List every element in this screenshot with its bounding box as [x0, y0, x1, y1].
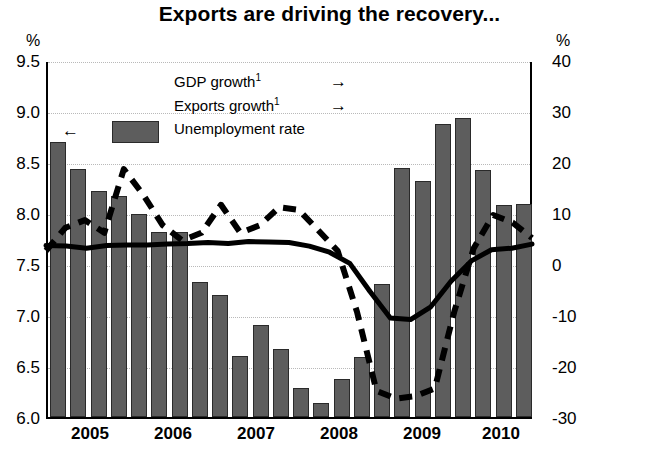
- legend-item-gdp-growth: GDP growth1 →: [62, 72, 362, 96]
- x-axis-tick: 2005: [50, 424, 130, 444]
- y-axis-tick-right: -30: [552, 409, 612, 429]
- bar: [354, 357, 370, 417]
- x-axis-tick: 2008: [299, 424, 379, 444]
- bar: [91, 191, 107, 417]
- arrow-right-icon: →: [330, 96, 347, 116]
- legend-label: GDP growth1: [174, 72, 261, 90]
- y-axis-tick-right: 0: [552, 256, 612, 276]
- bar-swatch-icon: [112, 121, 159, 143]
- x-axis-tick: 2010: [461, 424, 541, 444]
- right-axis-unit: %: [556, 32, 570, 50]
- bar: [313, 403, 329, 417]
- x-axis-tick: 2009: [382, 424, 462, 444]
- bar: [475, 170, 491, 417]
- y-axis-tick-left: 6.5: [0, 358, 40, 378]
- bar: [111, 196, 127, 417]
- y-axis-tick-left: 6.0: [0, 409, 40, 429]
- legend-item-unemployment-rate: ← Unemployment rate: [62, 120, 362, 144]
- y-axis-tick-left: 7.5: [0, 256, 40, 276]
- bar: [131, 214, 147, 417]
- y-axis-tick-left: 7.0: [0, 307, 40, 327]
- legend-label: Exports growth1: [174, 96, 280, 114]
- bar: [293, 388, 309, 417]
- bar: [415, 181, 431, 417]
- bar: [232, 356, 248, 417]
- y-axis-tick-right: 40: [552, 52, 612, 72]
- y-axis-tick-right: -10: [552, 307, 612, 327]
- y-axis-tick-left: 8.5: [0, 154, 40, 174]
- bar: [334, 379, 350, 417]
- bar: [172, 232, 188, 417]
- bar: [516, 204, 532, 417]
- y-axis-tick-left: 9.5: [0, 52, 40, 72]
- bar: [192, 282, 208, 417]
- bar: [455, 118, 471, 417]
- y-axis-tick-right: -20: [552, 358, 612, 378]
- legend-item-exports-growth: Exports growth1 →: [62, 96, 362, 120]
- arrow-left-icon: ←: [62, 121, 79, 141]
- legend-label: Unemployment rate: [174, 120, 305, 137]
- y-axis-tick-right: 10: [552, 205, 612, 225]
- gridline: [48, 62, 530, 63]
- bar: [151, 232, 167, 417]
- bar: [394, 168, 410, 417]
- y-axis-tick-left: 9.0: [0, 103, 40, 123]
- bar: [374, 284, 390, 417]
- bar: [273, 349, 289, 417]
- bar: [496, 205, 512, 417]
- chart-legend: GDP growth1 → Exports growth1 → ← Unempl…: [62, 72, 362, 144]
- bar: [435, 124, 451, 417]
- arrow-right-icon: →: [330, 72, 347, 92]
- bar: [70, 169, 86, 417]
- chart-figure: Exports are driving the recovery... % % …: [0, 0, 659, 458]
- x-axis-tick: 2006: [133, 424, 213, 444]
- left-axis-unit: %: [26, 32, 40, 50]
- y-axis-tick-right: 20: [552, 154, 612, 174]
- bar: [212, 295, 228, 417]
- page-title: Exports are driving the recovery...: [0, 2, 659, 26]
- x-axis-tick: 2007: [216, 424, 296, 444]
- y-axis-tick-right: 30: [552, 103, 612, 123]
- y-axis-tick-left: 8.0: [0, 205, 40, 225]
- bar: [253, 325, 269, 417]
- bar: [50, 142, 66, 417]
